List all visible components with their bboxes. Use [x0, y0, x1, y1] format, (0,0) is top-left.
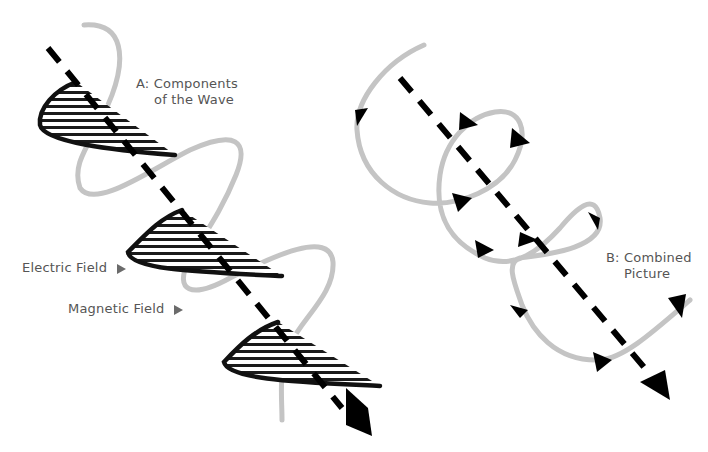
pointer-arrow-icon	[174, 305, 183, 315]
panel-b-title: B: Combined Picture	[606, 250, 692, 282]
panel-a-title: A: Components of the Wave	[136, 76, 238, 108]
em-wave-diagram: A: Components of the Wave Electric Field…	[0, 0, 708, 452]
axis-arrowhead-a	[346, 388, 372, 436]
arrow-icon	[355, 108, 368, 126]
diagram-canvas	[0, 0, 708, 452]
axis-arrowhead-b	[640, 370, 670, 400]
pointer-arrow-icon	[117, 264, 126, 274]
panel-b-combined	[355, 45, 690, 400]
propagation-axis-b	[400, 78, 648, 372]
electric-field-label: Electric Field	[22, 260, 126, 276]
arrow-icon	[518, 232, 538, 247]
magnetic-field-label: Magnetic Field	[68, 301, 183, 317]
arrow-icon	[593, 352, 612, 372]
